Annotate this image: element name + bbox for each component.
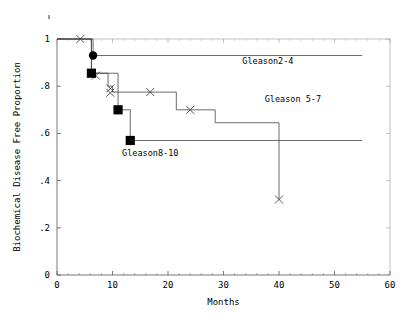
series-annotations: Gleason2-4Gleason 5-7Gleason8-10	[122, 56, 321, 158]
x-tick-label: 40	[274, 280, 285, 290]
y-tick-label: .4	[39, 176, 50, 186]
x-tick-label: 0	[54, 280, 59, 290]
series-lines	[57, 39, 362, 199]
series-step-line	[57, 39, 362, 140]
event-square-marker	[87, 69, 96, 78]
axes	[57, 39, 390, 275]
x-tick-label: 60	[385, 280, 396, 290]
series-annotation: Gleason2-4	[242, 56, 293, 66]
series-step-line	[57, 39, 362, 56]
y-tick-label: .6	[39, 128, 50, 138]
kaplan-meier-chart: 0102030405060 0.2.4.6.81 Gleason2-4Gleas…	[0, 0, 417, 314]
event-square-marker	[113, 105, 122, 114]
event-square-marker	[126, 136, 135, 145]
event-circle-marker	[89, 51, 97, 59]
x-tick-label: 30	[218, 280, 229, 290]
y-tick-label: 1	[45, 34, 50, 44]
y-tick-labels: 0.2.4.6.81	[39, 34, 50, 280]
x-tick-label: 10	[107, 280, 118, 290]
censor-x-marker	[106, 85, 114, 93]
stray-artifact-mark	[48, 15, 50, 19]
y-axis-label: Biochemical Disease Free Proportion	[12, 62, 22, 252]
x-tick-label: 20	[163, 280, 174, 290]
censor-x-marker	[106, 89, 114, 97]
x-axis-label: Months	[207, 297, 240, 307]
x-tick-labels: 0102030405060	[54, 280, 395, 290]
y-tick-label: 0	[45, 270, 50, 280]
y-tick-label: .2	[39, 223, 50, 233]
x-tick-label: 50	[329, 280, 340, 290]
series-annotation: Gleason 5-7	[265, 94, 321, 104]
y-tick-label: .8	[39, 81, 50, 91]
chart-canvas: 0102030405060 0.2.4.6.81 Gleason2-4Gleas…	[0, 0, 417, 314]
series-annotation: Gleason8-10	[122, 148, 178, 158]
axis-ticks	[57, 39, 390, 275]
